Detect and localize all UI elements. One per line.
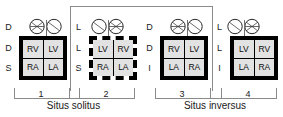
situs-solitus-caption: Situs solitus bbox=[14, 100, 133, 112]
panel-1-letter-atrial: S bbox=[2, 64, 15, 73]
situs-inversus-caption: Situs inversus bbox=[155, 100, 275, 112]
panel-1-letter-loop: D bbox=[2, 44, 15, 53]
panel-3-chamber-bottom-right: RA bbox=[185, 59, 205, 77]
panel-1-heart-block: RV LV RA LA bbox=[19, 36, 67, 80]
panel-2: L L S LV RV RA LA bbox=[72, 18, 140, 86]
panel-4: L L I LV RV LA RA bbox=[213, 18, 281, 86]
panel-2-heart-block: LV RV RA LA bbox=[89, 36, 137, 80]
panel-2-side-letters: L L S bbox=[72, 18, 85, 86]
situs-solitus-group-line bbox=[14, 98, 133, 99]
panel-3-side-letters: D D I bbox=[143, 18, 156, 86]
panel-3-chamber-top-left: RV bbox=[164, 40, 184, 58]
panel-2-letter-loop: L bbox=[72, 44, 85, 53]
panel-1-chamber-top-left: RV bbox=[23, 40, 43, 58]
panel-1-chamber-top-right: LV bbox=[44, 40, 64, 58]
panel-1-chamber-bottom-left: RA bbox=[23, 59, 43, 77]
panel-3-heart-block: RV LV LA RA bbox=[160, 36, 208, 80]
panel-3: D D I RV LV LA RA bbox=[143, 18, 211, 86]
panel-1-letter-bronchial: D bbox=[2, 23, 15, 32]
panel-2-letter-atrial: S bbox=[72, 64, 85, 73]
panel-2-chamber-bottom-left: RA bbox=[93, 59, 113, 77]
panel-3-letter-bronchial: D bbox=[143, 23, 156, 32]
figure-canvas: D D S RV LV RA LA L bbox=[0, 0, 283, 117]
panel-4-chamber-bottom-left: LA bbox=[234, 59, 254, 77]
panel-3-chamber-bottom-left: LA bbox=[164, 59, 184, 77]
panel-3-chamber-top-right: LV bbox=[185, 40, 205, 58]
panel-2-chamber-top-right: RV bbox=[114, 40, 134, 58]
panel-2-chamber-bottom-right: LA bbox=[114, 59, 134, 77]
panel-3-letter-atrial: I bbox=[143, 64, 156, 73]
panel-4-chamber-top-right: RV bbox=[255, 40, 275, 58]
panel-1: D D S RV LV RA LA bbox=[2, 18, 70, 86]
panel-4-letter-loop: L bbox=[213, 44, 226, 53]
panel-2-letter-bronchial: L bbox=[72, 23, 85, 32]
panel-4-chamber-top-left: LV bbox=[234, 40, 254, 58]
panel-4-chamber-bottom-right: RA bbox=[255, 59, 275, 77]
panel-2-chamber-top-left: LV bbox=[93, 40, 113, 58]
situs-inversus-group-line bbox=[155, 98, 275, 99]
panel-4-heart-block: LV RV LA RA bbox=[230, 36, 278, 80]
panel-3-letter-loop: D bbox=[143, 44, 156, 53]
panel-1-chamber-bottom-right: LA bbox=[44, 59, 64, 77]
panel-4-letter-atrial: I bbox=[213, 64, 226, 73]
panel-1-side-letters: D D S bbox=[2, 18, 15, 86]
